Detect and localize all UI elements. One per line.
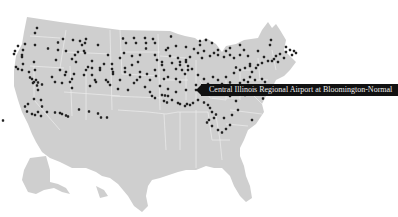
airport-marker[interactable] [285, 46, 287, 48]
airport-marker[interactable] [167, 88, 169, 90]
airport-marker[interactable] [201, 57, 203, 59]
airport-marker[interactable] [72, 39, 74, 41]
airport-marker[interactable] [199, 44, 201, 46]
airport-marker[interactable] [133, 37, 135, 39]
airport-marker[interactable] [91, 67, 93, 69]
airport-marker[interactable] [151, 95, 153, 97]
airport-marker[interactable] [264, 81, 266, 83]
airport-marker[interactable] [133, 82, 135, 84]
airport-marker[interactable] [170, 35, 172, 37]
airport-marker[interactable] [71, 87, 73, 89]
airport-marker[interactable] [136, 79, 138, 81]
airport-marker[interactable] [233, 57, 235, 59]
airport-marker[interactable] [77, 51, 79, 53]
airport-marker[interactable] [165, 49, 167, 51]
airport-marker[interactable] [251, 119, 253, 121]
airport-marker[interactable] [17, 68, 19, 70]
airport-marker[interactable] [154, 54, 156, 56]
airport-marker[interactable] [293, 50, 295, 52]
airport-marker[interactable] [161, 64, 163, 66]
airport-marker[interactable] [146, 73, 148, 75]
airport-marker[interactable] [167, 76, 169, 78]
airport-marker[interactable] [54, 111, 56, 113]
airport-marker[interactable] [277, 61, 279, 63]
airport-marker[interactable] [197, 74, 199, 76]
airport-marker[interactable] [65, 50, 67, 52]
airport-marker[interactable] [62, 38, 64, 40]
airport-marker[interactable] [78, 108, 80, 110]
airport-marker[interactable] [211, 125, 213, 127]
airport-marker[interactable] [179, 103, 181, 105]
airport-marker[interactable] [291, 54, 293, 56]
airport-marker[interactable] [109, 84, 111, 86]
airport-marker[interactable] [83, 74, 85, 76]
airport-marker[interactable] [209, 107, 211, 109]
airport-marker[interactable] [74, 54, 76, 56]
airport-marker[interactable] [171, 62, 173, 64]
airport-marker[interactable] [205, 39, 207, 41]
airport-marker[interactable] [235, 66, 237, 68]
airport-marker[interactable] [41, 83, 43, 85]
airport-marker[interactable] [139, 76, 141, 78]
airport-marker[interactable] [105, 79, 107, 81]
airport-marker[interactable] [124, 71, 126, 73]
airport-marker[interactable] [175, 91, 177, 93]
airport-marker[interactable] [75, 61, 77, 63]
airport-marker[interactable] [239, 54, 241, 56]
airport-marker[interactable] [100, 116, 102, 118]
airport-marker[interactable] [36, 27, 38, 29]
airport-marker[interactable] [33, 98, 35, 100]
airport-marker[interactable] [145, 47, 147, 49]
airport-marker[interactable] [89, 85, 91, 87]
airport-marker[interactable] [262, 97, 264, 99]
airport-marker[interactable] [51, 76, 53, 78]
airport-marker[interactable] [40, 99, 42, 101]
airport-marker[interactable] [255, 67, 257, 69]
airport-marker[interactable] [127, 89, 129, 91]
airport-marker[interactable] [257, 50, 259, 52]
airport-marker[interactable] [207, 104, 209, 106]
airport-marker[interactable] [171, 99, 173, 101]
airport-marker[interactable] [233, 72, 235, 74]
airport-marker[interactable] [149, 79, 151, 81]
airport-marker[interactable] [131, 55, 133, 57]
airport-marker[interactable] [64, 74, 66, 76]
airport-marker[interactable] [193, 48, 195, 50]
airport-marker[interactable] [24, 105, 26, 107]
airport-marker[interactable] [59, 69, 61, 71]
airport-marker[interactable] [137, 61, 139, 63]
airport-marker[interactable] [55, 59, 57, 61]
airport-marker[interactable] [156, 59, 158, 61]
airport-marker[interactable] [85, 69, 87, 71]
airport-marker[interactable] [61, 82, 63, 84]
airport-marker[interactable] [217, 129, 219, 131]
airport-marker[interactable] [212, 76, 214, 78]
airport-marker[interactable] [22, 49, 24, 51]
airport-marker[interactable] [185, 46, 187, 48]
airport-marker[interactable] [28, 71, 30, 73]
airport-marker[interactable] [57, 49, 59, 51]
airport-marker[interactable] [192, 102, 194, 104]
airport-marker[interactable] [213, 117, 215, 119]
airport-marker[interactable] [211, 111, 213, 113]
airport-marker[interactable] [34, 44, 36, 46]
airport-marker[interactable] [13, 53, 15, 55]
airport-marker[interactable] [26, 110, 28, 112]
airport-marker[interactable] [94, 79, 96, 81]
airport-marker[interactable] [88, 110, 90, 112]
airport-marker[interactable] [225, 50, 227, 52]
airport-marker[interactable] [275, 55, 277, 57]
airport-marker[interactable] [135, 42, 137, 44]
airport-marker[interactable] [85, 38, 87, 40]
airport-marker[interactable] [117, 88, 119, 90]
airport-marker[interactable] [107, 54, 109, 56]
airport-marker[interactable] [65, 71, 67, 73]
airport-marker[interactable] [249, 76, 251, 78]
airport-marker[interactable] [229, 124, 231, 126]
airport-marker[interactable] [208, 119, 210, 121]
airport-marker[interactable] [145, 42, 147, 44]
airport-marker[interactable] [81, 44, 83, 46]
airport-marker[interactable] [111, 63, 113, 65]
airport-marker[interactable] [103, 63, 105, 65]
airport-marker[interactable] [34, 32, 36, 34]
